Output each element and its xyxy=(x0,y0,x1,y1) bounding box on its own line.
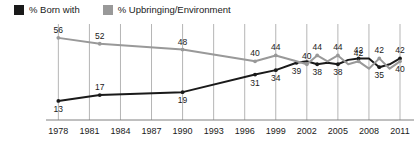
data-point-label: 19 xyxy=(178,95,188,105)
data-point-label: 40 xyxy=(302,51,312,61)
chart-legend: % Born with % Upbringing/Environment xyxy=(0,0,418,20)
x-tick-label: 1993 xyxy=(204,126,224,136)
legend-item-born-with: % Born with xyxy=(14,5,80,15)
chart-plot-area: 1317193134393838423542565248404440444442… xyxy=(0,20,418,155)
data-point-label: 34 xyxy=(271,73,281,83)
data-point-label: 42 xyxy=(354,48,364,58)
data-point-label: 44 xyxy=(312,42,322,52)
x-tick-label: 1990 xyxy=(173,126,193,136)
x-tick-label: 1978 xyxy=(48,126,68,136)
x-tick-label: 2008 xyxy=(359,126,379,136)
square-swatch-icon xyxy=(14,5,24,15)
value-labels: 1317193134393838423542565248404440444442… xyxy=(54,25,405,114)
data-point-label: 52 xyxy=(95,31,105,41)
data-point-label: 44 xyxy=(333,42,343,52)
x-tick-label: 2005 xyxy=(328,126,348,136)
line-chart-svg: 1317193134393838423542565248404440444442… xyxy=(0,20,418,155)
series-group xyxy=(56,36,401,103)
x-tick-label: 1987 xyxy=(142,126,162,136)
data-point-label: 35 xyxy=(375,70,385,80)
legend-item-upbringing: % Upbringing/Environment xyxy=(103,5,231,15)
x-tick-label: 2011 xyxy=(390,126,409,136)
data-point-label: 42 xyxy=(375,45,385,55)
x-axis-tick-labels: 1978198119841987199019931996199920022005… xyxy=(48,126,409,136)
data-point-label: 39 xyxy=(292,66,302,76)
data-point-label: 56 xyxy=(54,25,64,35)
data-point-label: 17 xyxy=(95,82,105,92)
data-point-label: 44 xyxy=(271,42,281,52)
data-point-label: 38 xyxy=(333,67,343,77)
x-tick-label: 2002 xyxy=(297,126,317,136)
chart-container: % Born with % Upbringing/Environment 131… xyxy=(0,0,418,155)
x-tick-label: 1996 xyxy=(235,126,255,136)
x-tick-label: 1981 xyxy=(79,126,99,136)
data-point-label: 40 xyxy=(395,64,405,74)
data-point-label: 38 xyxy=(312,67,322,77)
data-point-label: 31 xyxy=(250,78,260,88)
gridlines xyxy=(58,24,400,120)
square-swatch-icon xyxy=(103,5,113,15)
legend-label-upbringing: % Upbringing/Environment xyxy=(118,5,231,15)
data-point-label: 40 xyxy=(250,48,260,58)
data-point-label: 13 xyxy=(54,104,64,114)
x-tick-label: 1999 xyxy=(266,126,286,136)
data-point-label: 48 xyxy=(178,37,188,47)
x-tick-label: 1984 xyxy=(110,126,130,136)
data-point-label: 42 xyxy=(395,45,405,55)
legend-label-born-with: % Born with xyxy=(29,5,80,15)
